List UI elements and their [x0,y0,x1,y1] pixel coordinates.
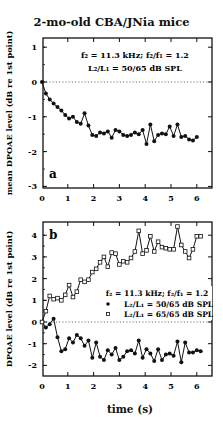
data-point [90,356,94,360]
data-point [71,295,75,299]
x-tick-label: 2 [91,193,97,203]
data-point [94,341,98,345]
data-point [183,250,187,254]
y-tick-label: -2 [28,360,37,370]
data-point [106,348,110,352]
data-point [125,349,129,353]
data-point [48,97,52,101]
data-point [199,234,203,238]
data-point [187,256,191,260]
y-tick-label: 0 [31,77,37,87]
data-point [121,133,125,137]
data-point [129,348,133,352]
chart-panel-a: 10-1-2-30123456mean DPOAE level (dB re 1… [4,31,212,203]
y-tick-label: -3 [28,181,37,191]
data-point [168,351,172,355]
legend-open-square-icon [107,313,110,316]
data-point [179,135,183,139]
data-point [137,229,141,233]
y-tick-label: -1 [28,339,37,349]
x-axis-label: time (s) [95,403,165,415]
data-point [56,296,60,300]
y-tick-label: 3 [31,252,37,262]
data-point [67,117,71,121]
data-point [148,351,152,355]
y-tick-label: 4 [31,230,37,240]
data-point [180,243,184,247]
data-point [71,115,75,119]
data-point [87,278,91,282]
data-point [152,359,156,363]
data-point [118,263,122,267]
data-point [86,124,90,128]
data-point [195,348,199,352]
data-point [164,353,168,357]
data-point [144,142,148,146]
legend-filled-circle-icon [106,302,110,306]
y-tick-label: -2 [28,147,37,157]
x-tick-label: 3 [117,193,123,203]
data-point [133,250,137,254]
data-point [59,349,63,353]
data-point [90,133,94,137]
x-tick-label: 4 [142,193,148,203]
data-point [195,135,199,139]
data-point [94,134,98,138]
data-point [183,341,187,345]
legend-entry-50-65: L₂/L₁ = 50/65 dB SPL [124,300,214,309]
data-point [48,322,52,326]
data-point [176,225,180,229]
x-tick-label: 6 [194,381,200,391]
data-point [98,130,102,134]
data-point [48,294,52,298]
data-point [44,309,48,313]
data-point [102,358,106,362]
data-point [44,91,48,95]
y-tick-label: -1 [28,112,37,122]
data-point [67,283,71,287]
annotation-frequency: f₂ = 11.3 kHz; f₂/f₁ = 1.2 [106,289,208,298]
data-point [144,347,148,351]
data-point [83,111,87,115]
data-point [191,138,195,142]
data-point [133,351,137,355]
annotation-levels: L₂/L₁ = 50/65 dB SPL [88,63,182,73]
data-point [172,248,176,252]
data-point [114,252,118,256]
data-point [59,109,63,113]
x-tick-label: 4 [142,381,148,391]
data-point [75,333,79,337]
data-point [79,122,83,126]
data-point [156,133,160,137]
data-point [110,136,114,140]
y-axis-label: mean DPOAE level (dB re 1st point) [4,31,14,196]
data-point [98,261,102,265]
data-point [152,139,156,143]
data-point [83,344,87,348]
data-point [164,132,168,136]
x-tick-label: 2 [91,381,97,391]
data-point [125,134,129,138]
y-tick-label: 0 [31,317,37,327]
data-point [121,355,125,359]
data-point [141,356,145,360]
data-point [179,360,183,364]
data-point [98,355,102,359]
data-point [175,340,179,344]
data-point [102,255,106,259]
x-tick-label: 0 [39,381,45,391]
data-point [187,137,191,141]
x-tick-label: 5 [168,381,174,391]
data-point [172,134,176,138]
data-point [121,259,125,263]
data-point [106,129,110,133]
data-point [63,113,67,117]
data-point [91,270,95,274]
data-point [133,130,137,134]
data-point [168,125,172,129]
data-point [79,278,83,282]
data-point [102,132,106,136]
data-point [110,353,114,357]
x-tick-label: 0 [39,193,45,203]
data-point [114,128,118,132]
